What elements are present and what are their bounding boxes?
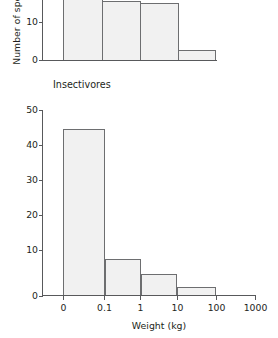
- bottom-ytick-label-0: 0: [16, 291, 38, 301]
- bottom-bar-bin-3: [141, 274, 178, 296]
- bottom-xtick-label-1000: 1000: [241, 303, 271, 313]
- bottom-ytick-label-50: 50: [16, 105, 38, 115]
- bottom-ytick-label-20: 20: [16, 210, 38, 220]
- figure-container: Number of species 10 0 Insectivores 50 4…: [0, 0, 278, 338]
- x-axis-label: Weight (kg): [99, 320, 219, 331]
- bottom-ytick-label-40: 40: [16, 140, 38, 150]
- bottom-ytick-label-10: 10: [16, 245, 38, 255]
- chart-bottom-title: Insectivores: [53, 79, 111, 90]
- bottom-xtick-mark-1: [140, 296, 141, 300]
- bottom-xtick-mark-1000: [255, 296, 256, 300]
- bottom-xtick-mark-10: [177, 296, 178, 300]
- chart-bottom: Insectivores 50 40 30 20 10 0 0 0.1: [0, 0, 278, 338]
- bottom-bar-bin-1: [63, 129, 105, 296]
- bottom-xtick-mark-0: [63, 296, 64, 300]
- bottom-xtick-mark-0.1: [104, 296, 105, 300]
- bottom-xtick-label-1: 1: [126, 303, 156, 313]
- bottom-xtick-label-0: 0: [49, 303, 79, 313]
- bottom-xtick-mark-100: [216, 296, 217, 300]
- bottom-xtick-label-0.1: 0.1: [90, 303, 120, 313]
- bottom-bar-bin-2: [105, 259, 141, 296]
- bottom-x-axis-spine: [42, 295, 256, 296]
- bottom-ytick-label-30: 30: [16, 175, 38, 185]
- bottom-y-axis-spine: [42, 110, 43, 296]
- bottom-xtick-label-100: 100: [202, 303, 232, 313]
- bottom-xtick-label-10: 10: [163, 303, 193, 313]
